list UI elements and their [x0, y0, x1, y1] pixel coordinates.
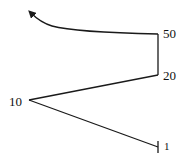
segment-1-to-10 [29, 100, 158, 147]
vertex-label-1: 1 [164, 140, 170, 152]
segment-10-to-20 [29, 75, 158, 100]
vertex-label-10: 10 [9, 94, 22, 109]
path-diagram: 50 20 10 1 [0, 0, 186, 163]
curved-arrow-from-50 [31, 13, 158, 34]
vertex-label-20: 20 [163, 68, 176, 83]
vertex-label-50: 50 [163, 26, 176, 41]
